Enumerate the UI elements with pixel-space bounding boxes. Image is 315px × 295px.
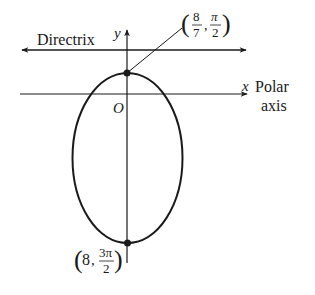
- top-theta-denominator: 2: [212, 25, 219, 40]
- svg-text:,: ,: [91, 252, 95, 268]
- bottom-theta-denominator: 2: [103, 261, 110, 276]
- bottom-theta-numerator: 3π: [99, 245, 113, 260]
- top-r-numerator: 8: [193, 9, 200, 24]
- directrix-label: Directrix: [37, 31, 95, 48]
- svg-text:): ): [222, 9, 231, 38]
- top-vertex-label: ( 8 7 , π 2 ): [181, 9, 231, 40]
- polar-axis-label-line2: axis: [261, 97, 287, 114]
- x-axis-label: x: [241, 78, 249, 94]
- top-r-denominator: 7: [193, 25, 200, 40]
- origin-label: O: [113, 100, 124, 116]
- bottom-r-value: 8: [82, 251, 90, 268]
- polar-ellipse-diagram: Directrix y x Polar axis O ( 8 7 , π 2 )…: [0, 0, 315, 295]
- svg-text:,: ,: [204, 18, 208, 33]
- top-theta-numerator: π: [211, 9, 218, 24]
- svg-text:): ): [114, 245, 123, 274]
- bottom-vertex-dot: [124, 240, 131, 247]
- svg-text:(: (: [181, 9, 190, 38]
- bottom-vertex-label: ( 8 , 3π 2 ): [74, 245, 123, 276]
- top-vertex-dot: [124, 70, 131, 77]
- y-axis-label: y: [112, 25, 121, 41]
- polar-axis-label-line1: Polar: [255, 78, 289, 95]
